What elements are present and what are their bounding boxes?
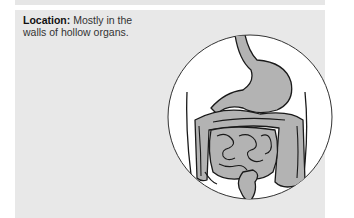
- digestive-tract-illustration-icon: [165, 32, 335, 202]
- info-panel: Location: Mostly in the walls of hollow …: [15, 10, 325, 218]
- location-caption: Location: Mostly in the walls of hollow …: [23, 15, 133, 38]
- top-strip: [15, 0, 325, 5]
- location-label: Location:: [23, 14, 70, 26]
